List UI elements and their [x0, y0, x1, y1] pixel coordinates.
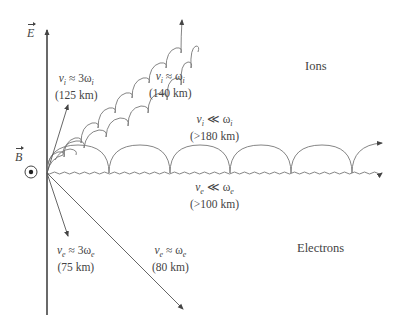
out-of-page-dot-icon — [25, 166, 37, 178]
ion-3omega-label: vi ≈ 3ωi (125 km) — [55, 72, 97, 102]
b-field-label: B — [15, 151, 22, 164]
electron-omega-arrow — [47, 173, 183, 309]
ion-cycloid-arches — [47, 143, 382, 173]
electrons-region-label: Electrons — [297, 242, 344, 255]
electron-3omega-arrow — [47, 173, 68, 236]
e-field-label: E — [27, 27, 34, 40]
ion-3omega-arrow — [47, 105, 68, 173]
ion-omega-label: vi ≈ ωi (140 km) — [149, 70, 191, 100]
ion-slow-drift-label: vi ≪ ωi (>180 km) — [190, 113, 239, 143]
diagram-canvas — [0, 0, 400, 328]
electron-slow-drift-label: ve ≪ ωe (>100 km) — [190, 181, 239, 211]
electron-3omega-label: ve ≈ 3ωe (75 km) — [57, 244, 95, 274]
drift-trajectory-diagram: E B Ions Electrons vi ≈ 3ωi (125 km) vi … — [0, 0, 400, 328]
electron-drift-wavy-line — [47, 172, 382, 174]
ions-region-label: Ions — [305, 60, 327, 73]
electron-omega-label: ve ≈ ωe (80 km) — [152, 244, 189, 274]
